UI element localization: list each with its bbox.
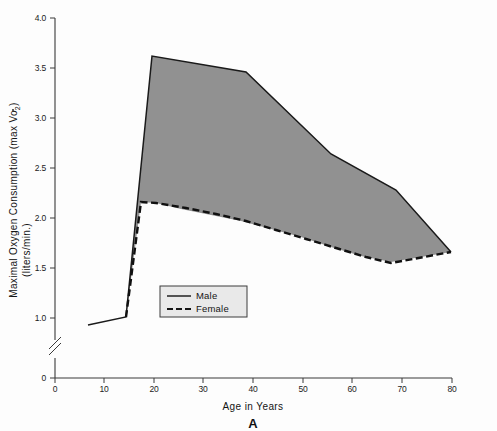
x-tick-label-0: 0	[53, 384, 58, 394]
legend-label-male: Male	[196, 290, 217, 301]
x-tick-label-80: 80	[447, 384, 457, 394]
x-tick-label-60: 60	[347, 384, 357, 394]
x-tick-label-50: 50	[298, 384, 308, 394]
x-tick-label-10: 10	[99, 384, 109, 394]
legend-label-female: Female	[196, 303, 229, 314]
y-tick-label-3: 3.5	[35, 63, 47, 73]
x-axis-title: Age in Years	[223, 401, 284, 412]
y-axis-title-line1: Maximal Oxygen Consumption (max Vo2)	[8, 102, 21, 297]
y-axis-title-main: Maximal Oxygen Consumption (max Vo	[8, 110, 19, 298]
y-tick-label-m2: 1.0	[35, 313, 47, 323]
y-axis-title-paren: )	[8, 102, 19, 106]
y-tick-label-2: 3.0	[35, 113, 47, 123]
y-axis-title-line2: (liters/min.)	[21, 223, 32, 277]
legend: Male Female	[160, 286, 247, 317]
x-tick-label-70: 70	[397, 384, 407, 394]
panel-letter-label: A	[248, 416, 258, 431]
oxygen-consumption-chart: 4.0 3.5 3.0 2.5 2.0 1.5 1.0 0 0 10 20 30…	[0, 0, 497, 431]
y-tick-label-zero: 0	[41, 373, 46, 383]
y-tick-label-0: 2.0	[35, 213, 47, 223]
x-tick-label-40: 40	[248, 384, 258, 394]
y-tick-label-4: 4.0	[35, 13, 47, 23]
y-tick-label-1: 2.5	[35, 163, 47, 173]
y-tick-label-m1: 1.5	[35, 263, 47, 273]
x-tick-label-30: 30	[198, 384, 208, 394]
v-dot-icon	[12, 109, 14, 111]
x-tick-label-20: 20	[149, 384, 159, 394]
